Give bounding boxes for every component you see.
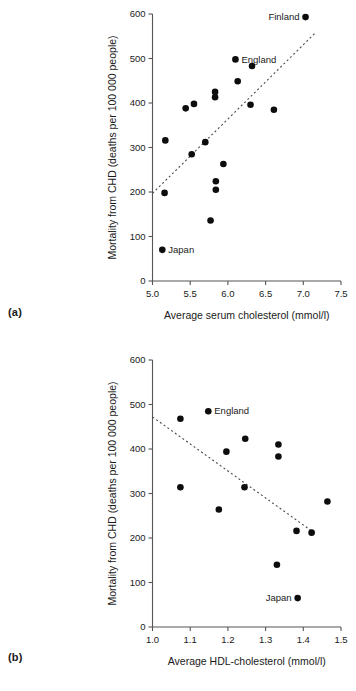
x-tick-label: 1.1	[184, 634, 197, 645]
data-point	[205, 408, 212, 415]
y-tick-label: 500	[130, 399, 146, 410]
data-point	[162, 137, 169, 144]
data-point	[271, 106, 278, 113]
data-point-label: England	[214, 405, 249, 416]
y-axis-title: Mortality from CHD (deaths per 100 000 p…	[106, 381, 118, 605]
y-tick-label: 600	[130, 8, 146, 19]
x-tick-label: 6.5	[259, 288, 272, 299]
y-tick-label: 100	[130, 577, 146, 588]
panel-label-a: (a)	[8, 306, 22, 318]
y-tick-label: 200	[130, 186, 146, 197]
x-tick-label: 1.5	[334, 634, 347, 645]
data-point	[213, 178, 220, 185]
data-point	[275, 441, 282, 448]
data-point-label: Japan	[168, 244, 194, 255]
data-point	[182, 105, 189, 112]
x-tick-label: 7.5	[334, 288, 347, 299]
x-tick-label: 5.5	[184, 288, 197, 299]
data-point	[212, 94, 219, 101]
data-point-label: Japan	[266, 592, 292, 603]
x-tick-label: 1.2	[221, 634, 234, 645]
x-axis-title: Average serum cholesterol (mmol/l)	[164, 309, 330, 321]
data-point	[213, 186, 220, 193]
data-point	[324, 498, 331, 505]
data-point	[159, 247, 166, 254]
x-tick-label: 6.0	[221, 288, 234, 299]
data-point	[249, 63, 256, 70]
y-tick-label: 200	[130, 532, 146, 543]
data-point	[191, 101, 198, 108]
data-point	[232, 56, 239, 63]
x-tick-label: 1.3	[259, 634, 272, 645]
scatter-plot-a: 01002003004005006005.05.56.06.57.07.5Fin…	[0, 0, 356, 345]
y-tick-label: 100	[130, 231, 146, 242]
data-point	[216, 506, 223, 513]
data-point	[275, 453, 282, 460]
x-tick-label: 1.4	[297, 634, 310, 645]
y-tick-label: 600	[130, 354, 146, 365]
data-point	[247, 101, 254, 108]
data-point	[177, 484, 184, 491]
y-tick-label: 400	[130, 443, 146, 454]
y-tick-label: 0	[140, 621, 145, 632]
scatter-plot-b: 01002003004005006001.01.11.21.31.41.5Eng…	[0, 346, 356, 691]
data-point	[234, 78, 241, 85]
data-point	[293, 528, 300, 535]
x-tick-label: 1.0	[146, 634, 159, 645]
data-point	[220, 161, 227, 168]
data-point	[274, 561, 281, 568]
x-tick-label: 5.0	[146, 288, 159, 299]
y-tick-label: 300	[130, 488, 146, 499]
data-point	[241, 484, 248, 491]
panel-label-b: (b)	[8, 651, 23, 663]
data-point	[161, 190, 168, 197]
data-point	[207, 217, 214, 224]
y-axis-title: Mortality from CHD (deaths per 100 000 p…	[106, 35, 118, 259]
x-axis-title: Average HDL-cholesterol (mmol/l)	[168, 655, 326, 667]
data-point	[242, 435, 249, 442]
data-point	[302, 14, 309, 21]
chart-panel-a: 01002003004005006005.05.56.06.57.07.5Fin…	[0, 0, 356, 345]
data-point-label: Finland	[268, 11, 299, 22]
y-tick-label: 0	[140, 275, 145, 286]
x-tick-label: 7.0	[297, 288, 310, 299]
trend-line	[153, 417, 317, 534]
data-point	[188, 151, 195, 158]
y-tick-label: 300	[130, 142, 146, 153]
data-point	[294, 595, 301, 602]
chart-panel-b: 01002003004005006001.01.11.21.31.41.5Eng…	[0, 346, 356, 691]
y-tick-label: 400	[130, 97, 146, 108]
data-point	[177, 415, 184, 422]
data-point	[202, 139, 209, 146]
data-point-label: England	[241, 54, 276, 65]
y-tick-label: 500	[130, 53, 146, 64]
data-point	[223, 448, 230, 455]
data-point	[308, 529, 315, 536]
